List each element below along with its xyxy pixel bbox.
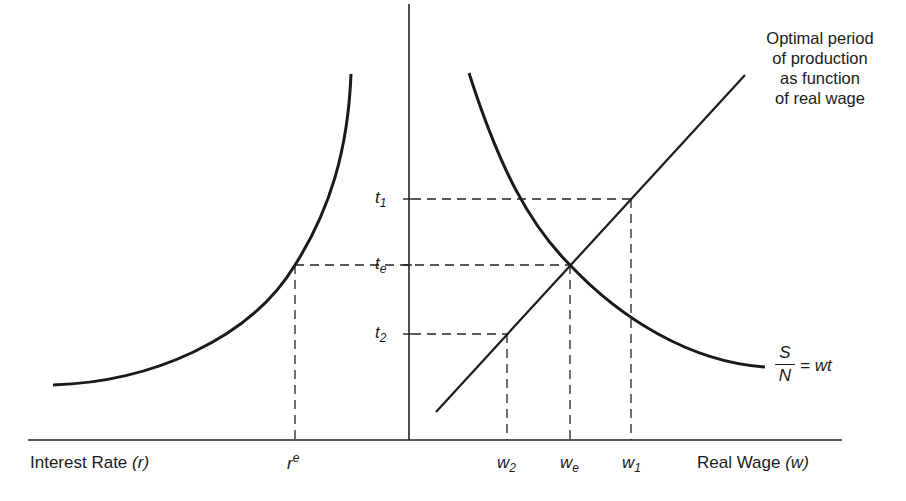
curve-label-sn: S N — [775, 343, 795, 386]
tick-t1: t1 — [375, 189, 386, 209]
tick-te: te — [375, 255, 386, 275]
axis-label-real-wage: Real Wage (w) — [697, 454, 809, 471]
tick-w1: w1 — [622, 454, 641, 474]
sn-wt-curve — [469, 73, 765, 367]
axis-label-interest-rate: Interest Rate (r) — [30, 454, 149, 471]
tick-t2: t2 — [375, 324, 386, 344]
interest-rate-curve — [53, 74, 351, 385]
curve-label-rhs: = wt — [800, 357, 832, 374]
tick-we: we — [560, 454, 579, 474]
annotation-optimal-period: Optimal period of production as function… — [735, 28, 905, 108]
optimal-period-line — [436, 75, 745, 412]
tick-re: re — [287, 452, 299, 472]
tick-w2: w2 — [497, 454, 516, 474]
